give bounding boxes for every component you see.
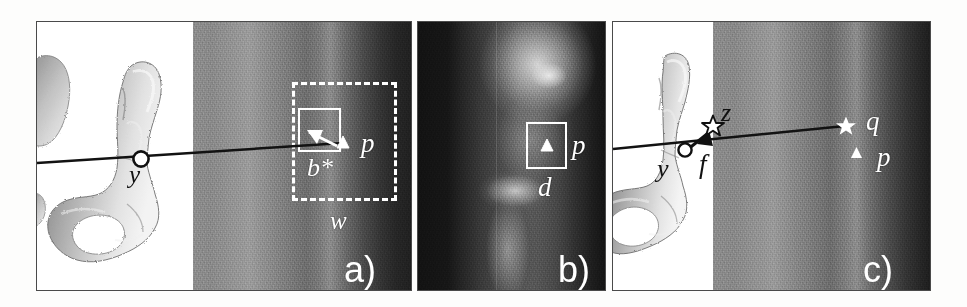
panel-c-xray-noise — [713, 22, 930, 290]
figure-canvas: y p b* w a) p d b) — [0, 0, 967, 307]
panel-c-xray-noise-fine — [713, 22, 930, 290]
panel-c-xray-half — [713, 22, 930, 290]
panel-b: p d b) — [418, 22, 605, 290]
panel-a-xray-noise-fine — [193, 22, 411, 290]
panel-b-label-p: p — [572, 132, 586, 159]
panel-c: y z f q p c) — [613, 22, 930, 290]
panel-a-xray-half — [193, 22, 411, 290]
panel-b-xray-noise — [418, 22, 605, 290]
panel-a-bone-render — [37, 28, 197, 290]
panel-b-label-d: d — [538, 174, 552, 201]
panel-b-detector-seam — [496, 22, 497, 290]
panel-b-point-p-triangle-marker — [540, 138, 554, 152]
panel-b-detection-block-d — [526, 122, 567, 169]
panel-b-xray-noise-fine — [418, 22, 605, 290]
panel-c-bone-render — [613, 46, 727, 290]
panel-b-tag: b) — [558, 252, 590, 288]
panel-b-overlay: p d b) — [418, 22, 605, 290]
panel-a: y p b* w a) — [37, 22, 411, 290]
panel-a-xray-noise — [193, 22, 411, 290]
